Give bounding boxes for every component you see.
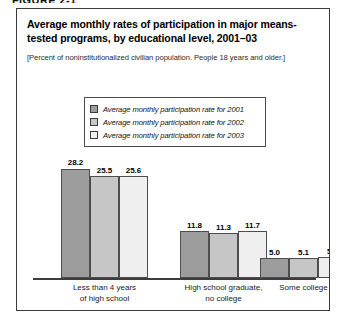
x-axis-line <box>33 278 316 280</box>
bar-value-label: 28.2 <box>68 158 84 167</box>
bar-value-label: 11.7 <box>245 221 260 230</box>
bar-rect[interactable] <box>90 176 119 278</box>
legend-swatch-2001 <box>90 105 98 113</box>
legend-label-2001: Average monthly participation rate for 2… <box>103 105 244 114</box>
bar-value-label: 11.3 <box>216 223 231 232</box>
legend-item: Average monthly participation rate for 2… <box>90 103 259 115</box>
figure-panel: Average monthly rates of participation i… <box>16 8 330 311</box>
legend-label-2002: Average monthly participation rate for 2… <box>103 118 244 127</box>
category-label: Less than 4 yearsof high school <box>73 283 136 304</box>
category-label: High school graduate,no college <box>185 283 263 304</box>
bar-rect[interactable] <box>289 258 318 278</box>
bar-value-label: 5.2 <box>327 247 330 256</box>
bar[interactable]: 11.3 <box>209 158 238 278</box>
bars-row: 28.225.525.6 <box>61 158 148 278</box>
bar[interactable]: 5.0 <box>260 158 289 278</box>
bar-group: 5.05.15.2Some college <box>260 158 330 278</box>
legend-item: Average monthly participation rate for 2… <box>90 129 259 141</box>
chart-legend: Average monthly participation rate for 2… <box>84 97 266 147</box>
bar-group: 28.225.525.6Less than 4 yearsof high sch… <box>61 158 148 278</box>
plot-area: 28.225.525.6Less than 4 yearsof high sch… <box>17 149 329 311</box>
bar-rect[interactable] <box>119 176 148 278</box>
bar[interactable]: 5.2 <box>318 158 330 278</box>
bar[interactable]: 25.5 <box>90 158 119 278</box>
bar-value-label: 11.8 <box>187 221 202 230</box>
legend-item: Average monthly participation rate for 2… <box>90 116 259 128</box>
chart-title: Average monthly rates of participation i… <box>27 18 319 45</box>
legend-label-2003: Average monthly participation rate for 2… <box>103 131 244 140</box>
bar-rect[interactable] <box>180 231 209 278</box>
bar[interactable]: 11.8 <box>180 158 209 278</box>
bar-value-label: 5.0 <box>269 248 280 257</box>
bar-group: 11.811.311.7High school graduate,no coll… <box>180 158 267 278</box>
bar-value-label: 25.6 <box>126 166 142 175</box>
bar[interactable]: 5.1 <box>289 158 318 278</box>
bars-row: 5.05.15.2 <box>260 158 330 278</box>
bar[interactable]: 28.2 <box>61 158 90 278</box>
bar-rect[interactable] <box>61 169 90 279</box>
bar-rect[interactable] <box>209 233 238 278</box>
bar-rect[interactable] <box>260 258 289 278</box>
bars-row: 11.811.311.7 <box>180 158 267 278</box>
bar[interactable]: 25.6 <box>119 158 148 278</box>
bar-value-label: 25.5 <box>97 166 113 175</box>
figure-number-label: FIGURE 2-1 <box>12 0 77 3</box>
bar-value-label: 5.1 <box>298 248 309 257</box>
category-label: Some college <box>279 283 327 294</box>
legend-swatch-2002 <box>90 118 98 126</box>
bar-rect[interactable] <box>318 257 330 278</box>
legend-swatch-2003 <box>90 131 98 139</box>
chart-subtitle: [Percent of noninstitutionalized civilia… <box>27 53 323 63</box>
